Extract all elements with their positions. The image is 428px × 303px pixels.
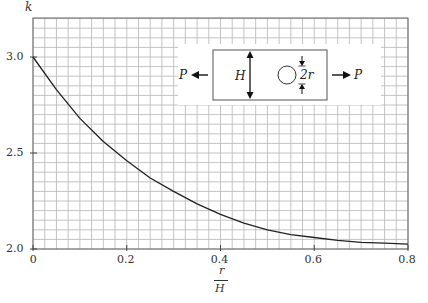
x-axis-fraction-bar: [214, 280, 228, 281]
y-tick-label: 2.5: [6, 146, 24, 159]
x-axis-label-denominator: H: [215, 282, 225, 295]
hole-label: 2r: [299, 68, 315, 82]
x-axis-label-numerator: r: [219, 264, 224, 277]
x-tick-label: 0.8: [398, 253, 416, 266]
height-label: H: [234, 69, 246, 83]
x-tick-label: 0: [30, 253, 37, 266]
load-label-right: P: [353, 68, 363, 82]
y-tick-label: 3.0: [6, 50, 24, 63]
x-tick-label: 0.6: [305, 253, 323, 266]
y-tick-label: 2.0: [6, 242, 24, 255]
x-tick-label: 0.2: [117, 253, 135, 266]
y-axis-label: k: [25, 0, 32, 14]
load-label-left: P: [178, 68, 188, 82]
